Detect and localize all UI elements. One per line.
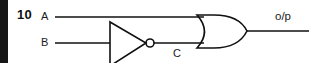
or-gate-body — [197, 15, 247, 48]
node-label-c: C — [173, 47, 181, 59]
input-label-a: A — [41, 10, 48, 22]
not-gate-triangle — [110, 22, 146, 63]
input-label-b: B — [41, 36, 48, 48]
question-number: 10 — [17, 8, 32, 22]
output-label: o/p — [275, 10, 291, 22]
logic-circuit-figure: 10 A B C o/p — [0, 0, 309, 63]
